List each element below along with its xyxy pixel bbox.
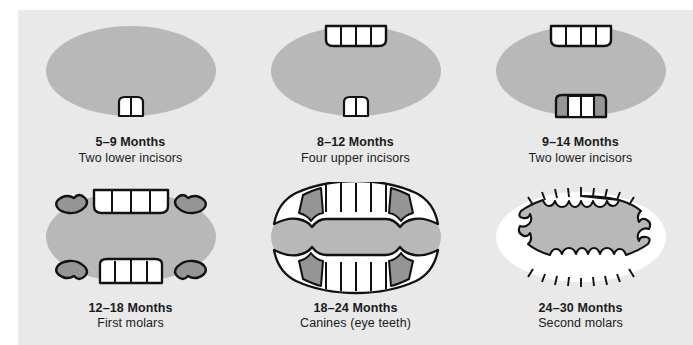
panel-description-label: Two lower incisors [79,151,183,166]
panel-description-label: Canines (eye teeth) [300,316,411,331]
panel-description-label: First molars [89,316,173,331]
panel-18-24-months: 18–24 Months Canines (eye teeth) [243,178,468,345]
panel-24-30-months: 24–30 Months Second molars [468,178,693,345]
figure-panel: 5–9 Months Two lower incisors [18,10,693,345]
panel-caption: 18–24 Months Canines (eye teeth) [300,301,411,332]
lower-arch [274,247,438,293]
panel-age-label: 12–18 Months [89,301,173,316]
panel-age-label: 9–14 Months [529,135,633,150]
panel-grid: 5–9 Months Two lower incisors [18,10,693,345]
panel-caption: 24–30 Months Second molars [538,301,623,332]
upper-incisors [551,26,611,46]
panel-caption: 8–12 Months Four upper incisors [301,135,410,166]
panel-caption: 9–14 Months Two lower incisors [529,135,633,166]
mouth-diagram-stage-4 [22,182,240,300]
mouth-diagram-stage-1 [22,16,240,134]
mouth-diagram-stage-2 [247,16,465,134]
panel-age-label: 18–24 Months [300,301,411,316]
lower-incisors [344,97,368,116]
lower-incisors [119,97,143,116]
panel-age-label: 8–12 Months [301,135,410,150]
lower-incisors [556,95,606,117]
lower-incisors [100,259,162,283]
panel-caption: 5–9 Months Two lower incisors [79,135,183,166]
mouth-diagram-stage-6 [472,182,690,300]
upper-incisors [326,26,386,46]
panel-5-9-months: 5–9 Months Two lower incisors [18,10,243,178]
panel-9-14-months: 9–14 Months Two lower incisors [468,10,693,178]
panel-description-label: Two lower incisors [529,151,633,166]
mouth-diagram-stage-5 [247,182,465,300]
panel-age-label: 24–30 Months [538,301,623,316]
upper-incisors [94,190,168,213]
panel-caption: 12–18 Months First molars [89,301,173,332]
panel-description-label: Four upper incisors [301,151,410,166]
panel-12-18-months: 12–18 Months First molars [18,178,243,345]
tooth-eruption-figure: 5–9 Months Two lower incisors [0,0,693,345]
panel-8-12-months: 8–12 Months Four upper incisors [243,10,468,178]
panel-description-label: Second molars [538,316,623,331]
mouth-diagram-stage-3 [472,16,690,134]
panel-age-label: 5–9 Months [79,135,183,150]
